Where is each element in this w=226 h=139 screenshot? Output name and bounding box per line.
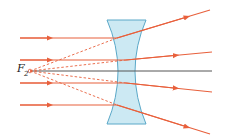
ray-diagram — [0, 0, 226, 139]
focal-point-subscript: 2 — [24, 70, 28, 78]
